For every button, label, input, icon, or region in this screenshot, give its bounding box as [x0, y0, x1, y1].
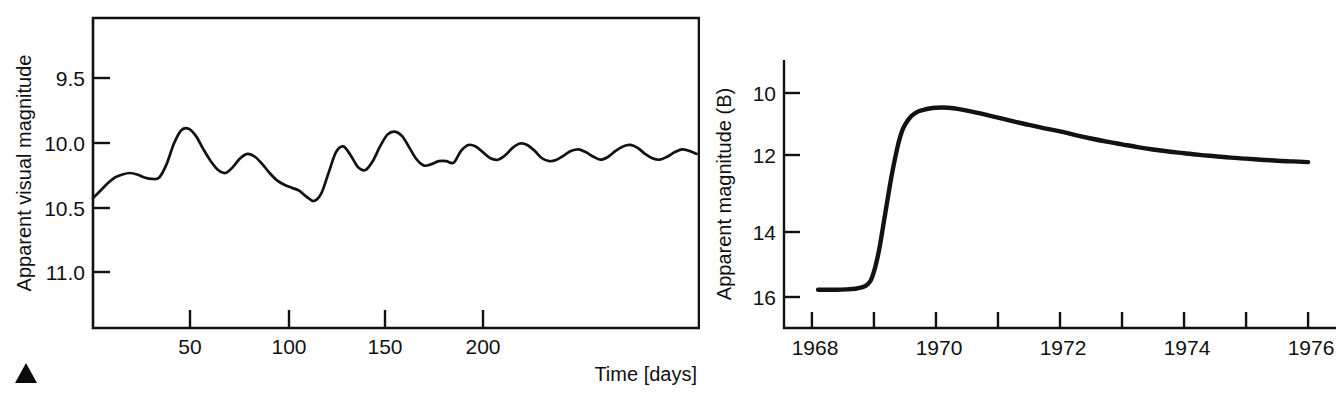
- x-tick-label-right-1974: 1974: [1164, 336, 1211, 359]
- x-tick-label-left-0: 50: [178, 335, 201, 358]
- data-series-b-light-curve: [818, 107, 1308, 289]
- x-tick-label-left-3: 200: [465, 335, 500, 358]
- x-axis-ticks-right: [812, 312, 1308, 328]
- y-tick-label-left-1: 10.0: [44, 132, 85, 155]
- x-axis-title-left: Time [days]: [594, 363, 697, 385]
- x-tick-label-right-1968: 1968: [792, 336, 839, 359]
- x-tick-label-right-1972: 1972: [1040, 336, 1087, 359]
- chart-left-visual-light-curve: 9.5 10.0 10.5 11.0 50 100 150 200 Time […: [0, 0, 700, 395]
- y-tick-label-left-0: 9.5: [56, 67, 85, 90]
- x-tick-label-left-2: 150: [367, 335, 402, 358]
- x-tick-label-right-1976: 1976: [1288, 336, 1335, 359]
- y-tick-label-right-3: 16: [753, 286, 776, 309]
- x-axis-ticks-left: [190, 310, 483, 328]
- y-axis-title-right: Apparent magnitude (B): [713, 88, 735, 300]
- y-tick-label-right-2: 14: [753, 221, 777, 244]
- plot-axes-right: [784, 60, 1336, 328]
- y-tick-label-left-2: 10.5: [44, 197, 85, 220]
- x-tick-label-left-1: 100: [271, 335, 306, 358]
- y-tick-label-right-0: 10: [753, 82, 776, 105]
- y-tick-label-right-1: 12: [753, 144, 776, 167]
- y-axis-title-left: Apparent visual magnitude: [13, 55, 35, 292]
- figure-root: 9.5 10.0 10.5 11.0 50 100 150 200 Time […: [0, 0, 1337, 395]
- chart-right-b-light-curve: 10 12 14 16 1968 1970 1972 1974 1976 App…: [700, 0, 1337, 395]
- data-series-visual-light-curve: [93, 128, 697, 201]
- plot-frame-left: [93, 18, 699, 328]
- y-tick-label-left-3: 11.0: [46, 261, 85, 284]
- y-axis-ticks-right: [784, 93, 800, 297]
- y-axis-ticks-left: [93, 78, 110, 272]
- x-tick-label-right-1970: 1970: [916, 336, 963, 359]
